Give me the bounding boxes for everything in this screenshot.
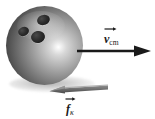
- friction-force-label: fκ: [66, 100, 74, 117]
- velocity-vector: [0, 0, 155, 119]
- velocity-vector-label: vcm: [104, 30, 119, 46]
- friction-label-arrow-overbar: [65, 96, 76, 100]
- velocity-label-subscript: cm: [109, 38, 118, 47]
- velocity-label-arrow-overbar: [104, 26, 117, 30]
- friction-label-subscript: κ: [70, 108, 74, 117]
- physics-figure-rolling-ball: vcm fκ: [0, 0, 155, 119]
- velocity-vector-arrowhead: [134, 46, 151, 57]
